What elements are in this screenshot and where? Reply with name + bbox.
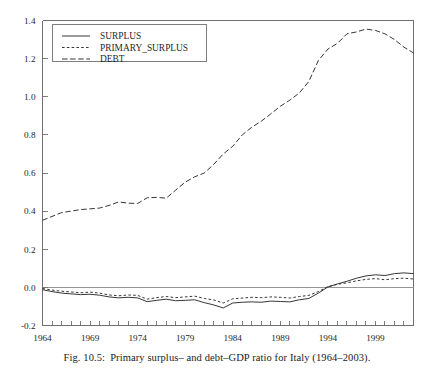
data-series-group: [43, 29, 414, 308]
chart-canvas: 1.41.21.00.80.60.40.20.0-0.2 19641969197…: [0, 0, 434, 378]
x-tick-label: 1969: [81, 333, 100, 343]
y-tick-label: 0.6: [24, 168, 36, 178]
x-tick-label: 1989: [271, 333, 290, 343]
plot-frame: [43, 21, 414, 326]
x-tick-label: 1999: [366, 333, 385, 343]
legend-label-primary_surplus: PRIMARY_SURPLUS: [100, 43, 188, 53]
y-tick-label: 0.0: [24, 283, 36, 293]
x-tick-label: 1974: [128, 333, 147, 343]
x-tick-label: 1964: [33, 333, 52, 343]
x-tick-label: 1979: [176, 333, 195, 343]
figure-number: Fig. 10.5:: [64, 352, 106, 363]
y-tick-label: 0.2: [24, 245, 36, 255]
y-tick-label: 1.4: [24, 16, 36, 26]
series-line-primary_surplus: [43, 278, 414, 303]
y-tick-label: 1.2: [24, 54, 36, 64]
figure-caption-text: Primary surplus– and debt–GDP ratio for …: [110, 352, 370, 363]
y-axis: 1.41.21.00.80.60.40.20.0-0.2: [21, 16, 48, 331]
chart-legend: SURPLUSPRIMARY_SURPLUSDEBT: [53, 25, 207, 65]
x-tick-label: 1994: [319, 333, 338, 343]
y-tick-label: 0.8: [24, 130, 36, 140]
series-line-surplus: [43, 273, 414, 308]
legend-label-debt: DEBT: [100, 54, 125, 64]
y-tick-label: 0.4: [24, 206, 36, 216]
x-axis: 19641969197419791984198919941999: [33, 321, 413, 343]
legend-label-surplus: SURPLUS: [100, 31, 141, 41]
figure-caption: Fig. 10.5:Primary surplus– and debt–GDP …: [0, 352, 434, 363]
x-tick-label: 1984: [224, 333, 243, 343]
y-tick-label: 1.0: [24, 92, 36, 102]
y-tick-label: -0.2: [21, 321, 36, 331]
figure-container: 1.41.21.00.80.60.40.20.0-0.2 19641969197…: [0, 0, 434, 378]
